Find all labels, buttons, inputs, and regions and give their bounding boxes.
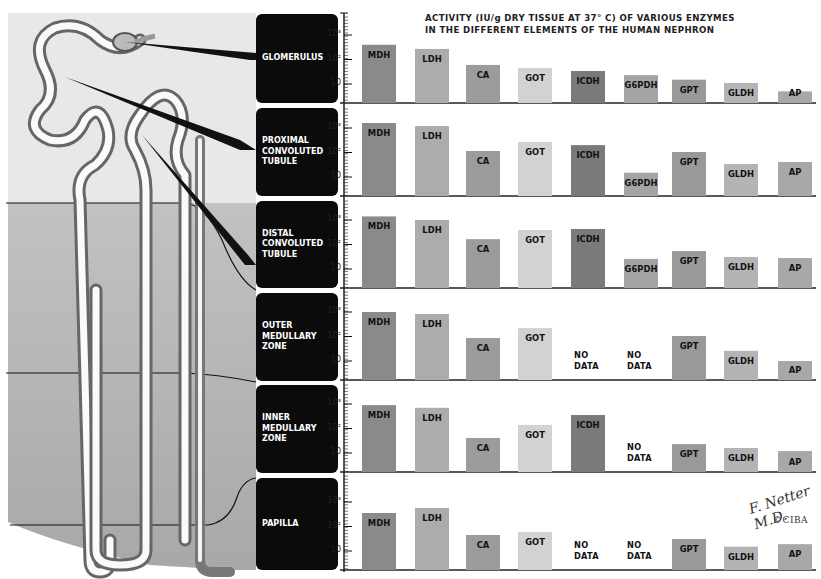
axis-tick-label: 10³ (317, 496, 341, 505)
panel-label-line: CONVOLUTED (262, 147, 323, 158)
bar-label: GPT (668, 544, 710, 554)
axis-tick-label: 10³ (317, 214, 341, 223)
panel-label-line: ZONE (262, 434, 316, 445)
chart-title-line2: IN THE DIFFERENT ELEMENTS OF THE HUMAN N… (425, 24, 805, 36)
bar-label: MDH (358, 221, 400, 231)
bar-label: GLDH (720, 88, 762, 98)
panel-label-line: INNER (262, 413, 316, 424)
axis-tick-label: 10 (317, 545, 341, 554)
no-data-label: NODATA (574, 540, 599, 562)
bar-label: GOT (514, 430, 556, 440)
bar-label: GLDH (720, 262, 762, 272)
bar-label: MDH (358, 317, 400, 327)
bar-label: GLDH (720, 356, 762, 366)
bar-label: AP (774, 88, 816, 98)
chart-title: ACTIVITY (IU/g DRY TISSUE AT 37° C) OF V… (425, 12, 805, 36)
panel-label-line: TUBULE (262, 157, 323, 168)
bar-label: G6PDH (620, 80, 662, 90)
bar-label: CA (462, 343, 504, 353)
axis-tick-label: 10³ (317, 306, 341, 315)
axis-tick-label: 10² (317, 521, 341, 530)
panel-label-line: MEDULLARY (262, 424, 316, 435)
bar-label: LDH (411, 131, 453, 141)
bar-label: AP (774, 549, 816, 559)
chart-title-line1: ACTIVITY (IU/g DRY TISSUE AT 37° C) OF V… (425, 12, 805, 24)
axis-tick-label: 10³ (317, 398, 341, 407)
bar-label: G6PDH (620, 178, 662, 188)
bar-label: CA (462, 70, 504, 80)
panel-label-line: TUBULE (262, 250, 323, 261)
bar-label: LDH (411, 319, 453, 329)
bar-label: AP (774, 167, 816, 177)
no-data-label: NODATA (627, 442, 652, 464)
nephron-enzyme-chart: ACTIVITY (IU/g DRY TISSUE AT 37° C) OF V… (0, 0, 821, 579)
panel-label-line: PROXIMAL (262, 136, 323, 147)
bar-label: ICDH (567, 76, 609, 86)
no-data-label: NODATA (627, 540, 652, 562)
axis-tick-label: 10² (317, 331, 341, 340)
bar-label: AP (774, 263, 816, 273)
axis-tick-label: 10³ (317, 29, 341, 38)
axis-tick-label: 10² (317, 239, 341, 248)
bar-label: GOT (514, 73, 556, 83)
bar-label: MDH (358, 50, 400, 60)
nephron-illustration (0, 0, 260, 579)
bar-label: LDH (411, 413, 453, 423)
bar-label: GPT (668, 157, 710, 167)
bar-label: ICDH (567, 150, 609, 160)
bar-label: MDH (358, 128, 400, 138)
bar-label: AP (774, 457, 816, 467)
axis-tick-label: 10³ (317, 122, 341, 131)
no-data-label: NODATA (574, 350, 599, 372)
bar-label: LDH (411, 225, 453, 235)
bar-label: ICDH (567, 234, 609, 244)
bar-label: GLDH (720, 453, 762, 463)
axis-tick-label: 10 (317, 355, 341, 364)
bar-label: G6PDH (620, 264, 662, 274)
bar-label: GOT (514, 333, 556, 343)
axis-tick-label: 10 (317, 263, 341, 272)
bar-label: ICDH (567, 420, 609, 430)
bar-label: CA (462, 156, 504, 166)
axis-tick-label: 10 (317, 171, 341, 180)
bar-label: GLDH (720, 169, 762, 179)
bar-label: CA (462, 244, 504, 254)
axis-tick-label: 10 (317, 447, 341, 456)
panel-label-line: PAPILLA (262, 519, 299, 530)
bar-label: GOT (514, 537, 556, 547)
bar-label: GLDH (720, 552, 762, 562)
axis-tick-label: 10² (317, 147, 341, 156)
panel-label-line: OUTER (262, 321, 316, 332)
bar-label: GPT (668, 256, 710, 266)
bar-label: LDH (411, 513, 453, 523)
bar-label: AP (774, 365, 816, 375)
axis-tick-label: 10² (317, 423, 341, 432)
copyright-label: ©CIBA (773, 515, 808, 525)
bar-label: GOT (514, 235, 556, 245)
panel-label-line: GLOMERULUS (262, 53, 323, 64)
bar-label: LDH (411, 54, 453, 64)
panel-label-line: DISTAL (262, 229, 323, 240)
panel-label-line: MEDULLARY (262, 332, 316, 343)
panel-label-line: CONVOLUTED (262, 239, 323, 250)
axis-tick-label: 10 (317, 78, 341, 87)
panel-label-line: ZONE (262, 342, 316, 353)
bar-label: GOT (514, 147, 556, 157)
bar-label: CA (462, 540, 504, 550)
bar-label: MDH (358, 518, 400, 528)
bar-label: GPT (668, 85, 710, 95)
axis-tick-label: 10² (317, 54, 341, 63)
bar-label: MDH (358, 410, 400, 420)
bar-label: GPT (668, 449, 710, 459)
bar-label: CA (462, 443, 504, 453)
no-data-label: NODATA (627, 350, 652, 372)
bar-label: GPT (668, 341, 710, 351)
